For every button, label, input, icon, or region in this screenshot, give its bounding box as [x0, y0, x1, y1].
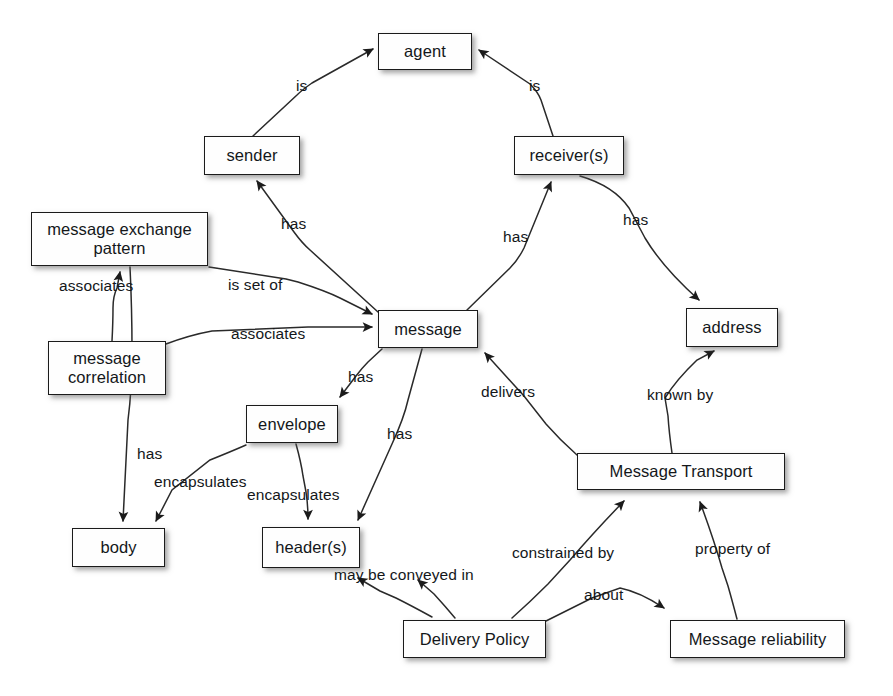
edge-label-transport-known-by-address: known by [647, 386, 713, 404]
edge-receivers-has-address [580, 176, 699, 300]
edge-label-envelope-encapsulates-body: encapsulates [154, 473, 247, 491]
edge-label-policy-constrains-transport: constrained by [512, 544, 614, 562]
node-headers[interactable]: header(s) [262, 527, 360, 568]
node-agent[interactable]: agent [378, 33, 472, 70]
node-message-reliability-label: Message reliability [689, 630, 827, 649]
edge-sender-is-agent [253, 49, 373, 136]
node-message-label: message [394, 320, 462, 339]
node-sender-label: sender [226, 146, 277, 165]
node-message-reliability[interactable]: Message reliability [670, 620, 845, 658]
edge-receivers-is-agent [479, 50, 553, 136]
edge-label-mep-has-body: has [137, 445, 162, 463]
node-body-label: body [100, 538, 136, 557]
node-message-transport[interactable]: Message Transport [577, 453, 785, 490]
node-message[interactable]: message [378, 310, 478, 348]
edge-label-transport-delivers-message: delivers [481, 383, 535, 401]
edge-transport-delivers-message [485, 353, 577, 455]
edge-label-correlation-associates-message: associates [231, 325, 305, 343]
edge-message-has-receivers [467, 182, 551, 310]
node-receivers-label: receiver(s) [529, 146, 608, 165]
node-headers-label: header(s) [275, 538, 347, 557]
edge-label-message-has-envelope: has [348, 368, 373, 386]
node-body[interactable]: body [72, 528, 165, 567]
node-receivers[interactable]: receiver(s) [514, 136, 624, 175]
edge-label-envelope-encapsulates-headers: encapsulates [247, 486, 340, 504]
edge-label-policy-conveyed-in-headers: may be conveyed in [334, 566, 474, 584]
node-address[interactable]: address [686, 308, 778, 347]
node-envelope[interactable]: envelope [246, 405, 338, 443]
node-agent-label: agent [404, 42, 446, 61]
edge-label-sender-is-agent: is [296, 77, 307, 95]
node-envelope-label: envelope [258, 415, 326, 434]
node-message-transport-label: Message Transport [610, 462, 753, 481]
edge-label-message-has-receivers: has [503, 228, 528, 246]
node-message-correlation[interactable]: messagecorrelation [48, 341, 166, 395]
edge-label-message-has-headers: has [387, 425, 412, 443]
node-address-label: address [702, 318, 761, 337]
edge-label-message-has-sender: has [281, 215, 306, 233]
node-sender[interactable]: sender [204, 136, 300, 175]
node-delivery-policy[interactable]: Delivery Policy [403, 620, 546, 658]
node-message-exchange-pattern-label: message exchangepattern [47, 220, 192, 258]
edge-label-reliability-property-of-transport: property of [695, 540, 770, 558]
edge-label-policy-about-reliability: about [584, 586, 623, 604]
edge-label-receivers-has-address: has [623, 211, 648, 229]
edge-label-receivers-is-agent: is [529, 77, 540, 95]
node-delivery-policy-label: Delivery Policy [420, 630, 530, 649]
edge-reliability-property-of-transport [700, 502, 737, 619]
edge-label-mep-is-set-of-message: is set of [228, 276, 282, 294]
edge-envelope-encapsulates-headers [296, 444, 308, 519]
node-message-correlation-label: messagecorrelation [68, 349, 146, 387]
edge-label-correlation-associates-mep: associates [59, 277, 133, 295]
concept-map-canvas: agent sender receiver(s) message exchang… [0, 0, 893, 696]
node-message-exchange-pattern[interactable]: message exchangepattern [31, 212, 208, 266]
